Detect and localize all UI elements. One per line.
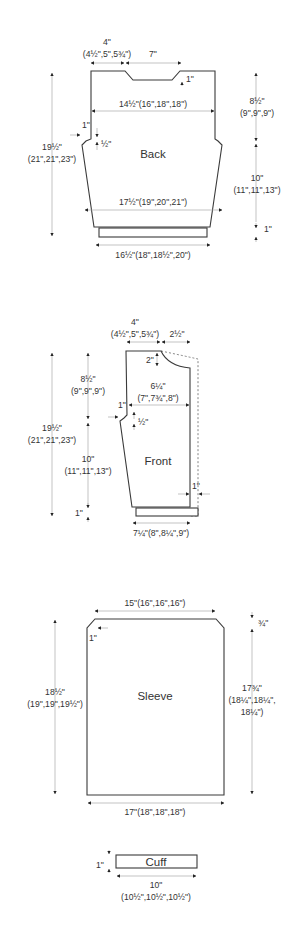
back-armhole-drop: ½" xyxy=(101,139,111,149)
cuff-width: 10" xyxy=(150,880,163,890)
back-hip-width: 17½"(19",20",21") xyxy=(119,197,187,207)
back-shoulder-width-sizes: (4½",5",5¾") xyxy=(83,49,131,59)
front-armhole-drop: ½" xyxy=(138,417,148,427)
sleeve-piece: 15"(16",16",16") 1" ¾" 18½" (19",19",19½… xyxy=(27,598,275,817)
sleeve-outline xyxy=(87,619,224,795)
cuff-height: 1" xyxy=(96,860,104,870)
front-armhole-inset: 1" xyxy=(118,400,126,410)
back-armhole-inset: 1" xyxy=(82,120,90,130)
front-side-length-sizes: (11",11",13") xyxy=(64,466,111,476)
front-placket-width: 1" xyxy=(192,481,200,491)
schematic-diagram: 4" (4½",5",5¾") 7" 1" 14½"(16",18",18") … xyxy=(0,0,297,946)
front-ribbing-width: 7¼"(8",8¼",9") xyxy=(133,528,189,538)
cuff-width-sizes: (10½",10½",10½") xyxy=(121,892,191,902)
back-upper-width: 14½"(16",18",18") xyxy=(119,99,187,109)
sleeve-right-length-sizes-line1: (18¼",18¼", xyxy=(228,695,275,705)
front-shoulder-width: 4" xyxy=(131,317,139,327)
back-piece: 4" (4½",5",5¾") 7" 1" 14½"(16",18",18") … xyxy=(28,37,281,260)
front-neck-depth: 2" xyxy=(146,355,154,365)
cuff-piece-label: Cuff xyxy=(146,856,168,868)
front-armhole-depth: 8½" xyxy=(81,374,96,384)
front-neck-width: 2½" xyxy=(170,329,185,339)
back-total-length-sizes: (21",21",23") xyxy=(28,154,76,164)
back-shoulder-width: 4" xyxy=(103,37,111,47)
back-neck-depth: 1" xyxy=(186,74,194,84)
front-ribbing-height: 1" xyxy=(75,508,83,518)
sleeve-piece-label: Sleeve xyxy=(137,690,172,702)
back-piece-label: Back xyxy=(140,148,166,160)
cuff-piece: Cuff 1" 10" (10½",10½",10½") xyxy=(96,850,197,902)
back-ribbing-height: 1" xyxy=(264,224,272,234)
sleeve-right-length: 17¾" xyxy=(242,683,262,693)
sleeve-corner-inset: 1" xyxy=(89,633,97,643)
front-ribbing xyxy=(136,508,198,516)
back-armhole-depth-sizes: (9",9",9") xyxy=(240,108,274,118)
front-total-length-sizes: (21",21",23") xyxy=(28,435,76,445)
front-upper-width: 6¼" xyxy=(151,381,166,391)
back-ribbing-width: 16½"(18",18½",20") xyxy=(115,250,190,260)
front-armhole-depth-sizes: (9",9",9") xyxy=(71,386,105,396)
sleeve-left-length-sizes: (19",19",19½") xyxy=(27,699,83,709)
sleeve-right-length-sizes-line2: 18¼") xyxy=(241,707,264,717)
back-side-length: 10" xyxy=(251,173,264,183)
sleeve-left-length: 18½" xyxy=(45,687,65,697)
front-upper-width-sizes: (7",7¾",8") xyxy=(137,393,178,403)
front-outline xyxy=(120,351,190,507)
front-piece-label: Front xyxy=(145,455,173,467)
back-armhole-depth: 8½" xyxy=(250,96,265,106)
back-total-length: 19½" xyxy=(42,142,62,152)
front-piece: 4" (4½",5",5¾") 2½" 2" 6¼" (7",7¾",8") 8… xyxy=(28,317,210,538)
sleeve-cap-drop: ¾" xyxy=(258,618,268,628)
sleeve-bottom-width: 17"(18",18",18") xyxy=(125,807,186,817)
front-total-length: 19½" xyxy=(42,423,62,433)
sleeve-top-width: 15"(16",16",16") xyxy=(125,598,186,608)
back-ribbing xyxy=(99,228,207,237)
front-shoulder-width-sizes: (4½",5",5¾") xyxy=(111,329,159,339)
back-side-length-sizes: (11",11",13") xyxy=(233,185,280,195)
back-neck-width: 7" xyxy=(149,49,157,59)
front-side-length: 10" xyxy=(82,454,95,464)
